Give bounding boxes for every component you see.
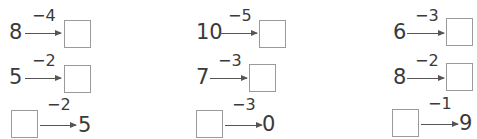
arrow-icon [25,78,61,79]
answer-box[interactable] [64,65,91,93]
end-number: 5 [78,115,91,136]
answer-box[interactable] [11,110,38,138]
arrow-icon [407,33,444,34]
start-number: 10 [196,22,223,43]
arrow-icon [210,78,247,79]
arrow-icon [220,33,257,34]
arrow-icon [40,125,76,126]
operation-label: −2 [415,53,439,69]
arrow-icon [421,124,458,125]
answer-box[interactable] [446,63,473,91]
start-number: 5 [9,67,22,88]
start-number: 8 [9,22,22,43]
end-number: 9 [459,113,472,134]
operation-label: −1 [428,96,452,112]
start-number: 6 [393,22,406,43]
arrow-icon [225,125,262,126]
answer-box[interactable] [259,20,286,48]
start-number: 7 [196,67,209,88]
answer-box[interactable] [64,20,91,48]
end-number: 0 [262,114,275,135]
operation-label: −5 [228,8,252,24]
answer-box[interactable] [446,18,473,46]
operation-label: −3 [415,8,439,24]
arrow-icon [25,33,61,34]
answer-box[interactable] [392,109,419,137]
answer-box[interactable] [196,110,223,138]
start-number: 8 [393,67,406,88]
operation-label: −2 [32,53,56,69]
operation-label: −3 [218,53,242,69]
operation-label: −3 [232,97,256,113]
arrow-icon [407,78,444,79]
operation-label: −4 [32,8,56,24]
answer-box[interactable] [249,64,276,92]
operation-label: −2 [47,97,71,113]
